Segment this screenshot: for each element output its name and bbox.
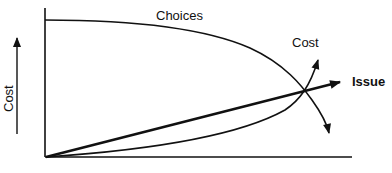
issue-line — [46, 82, 340, 157]
cost-curve-label: Cost — [292, 35, 319, 50]
issue-label: Issue — [352, 74, 385, 89]
y-axis-cost-label: Cost — [1, 85, 16, 112]
choices-label: Choices — [156, 8, 203, 23]
cost-choices-issue-diagram: Choices Cost Issue Cost — [0, 0, 392, 173]
cost-curve — [46, 60, 318, 157]
choices-curve — [45, 20, 329, 133]
